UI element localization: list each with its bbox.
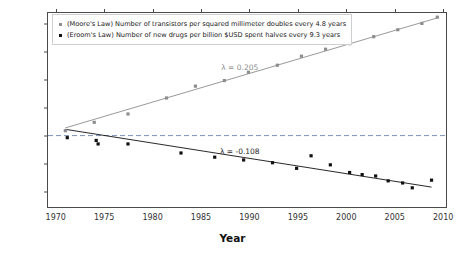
legend-marker-eroom [59,34,62,37]
legend-label-moore: (Moore's Law) Number of transistors per … [67,21,346,28]
chart-root: Normalized value Year 2⁸2⁶2⁴2²2⁰2⁻²2⁻⁴ 1… [0,0,465,253]
x-tick-mark [249,9,250,13]
legend-item-eroom: (Eroom's Law) Number of new drugs per bi… [57,30,346,40]
legend-label-eroom: (Eroom's Law) Number of new drugs per bi… [67,32,340,39]
x-tick-mark [56,9,57,13]
x-tick-label: 1980 [142,213,162,222]
x-tick-label: 1985 [191,213,211,222]
y-tick-mark [44,164,48,165]
x-tick-label: 1970 [46,213,66,222]
x-tick-mark [104,9,105,13]
y-tick-mark [44,136,48,137]
y-tick-mark [44,52,48,53]
x-tick-mark [395,9,396,13]
lambda-annotation-eroom: λ = -0.108 [220,146,260,155]
lambda-annotation-moore: λ = 0.205 [221,62,258,71]
x-tick-label: 2010 [433,213,453,222]
y-tick-mark [44,108,48,109]
x-axis-label: Year [0,232,465,244]
x-tick-label: 1975 [94,213,114,222]
x-tick-label: 1995 [288,213,308,222]
x-tick-label: 2005 [385,213,405,222]
legend-item-moore: (Moore's Law) Number of transistors per … [57,19,346,29]
x-tick-label: 1990 [239,213,259,222]
chart-legend: (Moore's Law) Number of transistors per … [52,14,352,45]
y-tick-mark [44,24,48,25]
x-tick-mark [298,9,299,13]
x-tick-mark [153,9,154,13]
y-tick-mark [44,80,48,81]
y-tick-mark [44,192,48,193]
legend-marker-moore [59,23,62,26]
x-tick-mark [443,9,444,13]
x-tick-mark [201,9,202,13]
x-tick-label: 2000 [336,213,356,222]
x-tick-mark [346,9,347,13]
